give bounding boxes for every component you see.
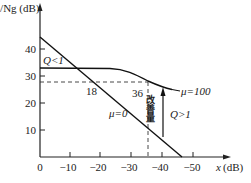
x-axis-label-var: x xyxy=(215,161,221,173)
mu100-leader xyxy=(172,90,180,92)
y-tick-20: 20 xyxy=(25,97,37,109)
x-axis-label-unit: (dB) xyxy=(223,161,244,174)
x-tick-50: −50 xyxy=(183,161,201,173)
annotation-mu100: μ=100 xyxy=(180,85,211,97)
x-tick-40: −40 xyxy=(151,161,169,173)
annotation-improvement: 改善量 xyxy=(145,94,155,123)
improvement-arrow-head-icon xyxy=(161,87,166,96)
x-axis-arrow-icon xyxy=(223,155,231,160)
annotation-18: 18 xyxy=(86,85,98,97)
series-mu100-curve xyxy=(40,68,172,90)
y-tick-40: 40 xyxy=(25,43,37,55)
y-tick-10: 10 xyxy=(25,124,37,136)
snr-chart: 40 30 20 10 0 −10 −20 −30 −40 −50 S/Ng (… xyxy=(0,0,251,183)
annotation-mu0: μ=0 xyxy=(108,107,128,119)
x-tick-10: −10 xyxy=(59,161,77,173)
x-tick-30: −30 xyxy=(120,161,138,173)
x-ticks xyxy=(70,152,193,157)
annotation-36: 36 xyxy=(132,87,144,99)
annotation-q-greater: Q>1 xyxy=(170,108,191,120)
annotation-q-less: Q<1 xyxy=(43,54,64,66)
x-tick-0: 0 xyxy=(37,161,43,173)
y-axis-label: S/Ng (dB) xyxy=(0,2,40,15)
y-tick-30: 30 xyxy=(25,70,37,82)
x-tick-20: −20 xyxy=(89,161,107,173)
